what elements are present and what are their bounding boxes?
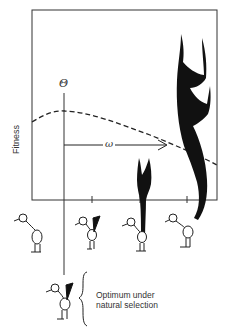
- y-axis-label: Fitness: [11, 120, 22, 160]
- optimum-annotation: Optimum under natural selection: [96, 290, 158, 310]
- curly-brace: [79, 272, 87, 326]
- annotation-line-1: Optimum under: [96, 290, 158, 300]
- bird-no-tail: [14, 214, 42, 252]
- bird-small-tail: [75, 216, 100, 249]
- annotation-line-2: natural selection: [96, 300, 158, 310]
- distance-symbol: ω: [103, 138, 115, 149]
- bird-optimum: [46, 283, 73, 319]
- diagram-canvas: [0, 0, 225, 329]
- medium-tail: [137, 158, 151, 240]
- large-tail: [177, 34, 211, 220]
- optimum-symbol: Θ: [59, 78, 68, 89]
- bird-large-tail: [165, 214, 193, 247]
